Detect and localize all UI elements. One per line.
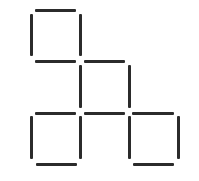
matchstick-middle-square-bottom	[84, 112, 125, 115]
matchstick-bottom-right-square-bottom	[133, 163, 174, 166]
matchstick-bottom-left-square-right	[79, 116, 82, 159]
matchstick-bottom-right-square-top	[132, 112, 174, 115]
matchstick-bottom-right-square-left	[128, 116, 131, 159]
matchstick-top-square-right	[79, 14, 82, 56]
matchstick-bottom-left-square-bottom	[36, 163, 77, 166]
matchstick-bottom-right-square-right	[177, 116, 180, 159]
matchstick-middle-square-right	[128, 65, 131, 108]
matchstick-top-square-bottom	[35, 60, 76, 63]
matchstick-middle-square-top	[84, 60, 125, 63]
matchstick-top-square-left	[30, 14, 33, 56]
matchstick-diagram	[0, 0, 199, 181]
matchstick-top-square-top	[35, 9, 76, 12]
matchstick-bottom-left-square-top	[35, 112, 76, 115]
matchstick-bottom-left-square-left	[30, 116, 33, 159]
matchstick-middle-square-left	[79, 65, 82, 108]
